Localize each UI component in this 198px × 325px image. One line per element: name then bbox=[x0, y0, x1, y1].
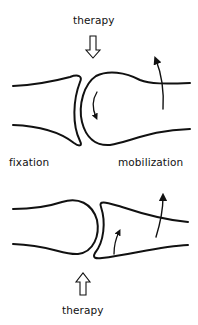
top-fixed-bone bbox=[13, 76, 81, 146]
joint-diagram bbox=[0, 0, 198, 325]
top-joint bbox=[13, 60, 190, 145]
therapy-arrow-up-icon bbox=[76, 273, 90, 295]
bottom-fixed-bone bbox=[13, 200, 98, 254]
bottom-joint bbox=[13, 197, 188, 258]
top-mobile-bone bbox=[81, 73, 190, 146]
rotation-arrow-small-icon bbox=[114, 232, 119, 254]
therapy-arrow-down-icon bbox=[86, 36, 100, 58]
mobilization-arrow-top-icon bbox=[156, 60, 163, 109]
rotation-arrow-icon bbox=[93, 92, 97, 117]
bottom-mobile-bone bbox=[94, 202, 188, 258]
